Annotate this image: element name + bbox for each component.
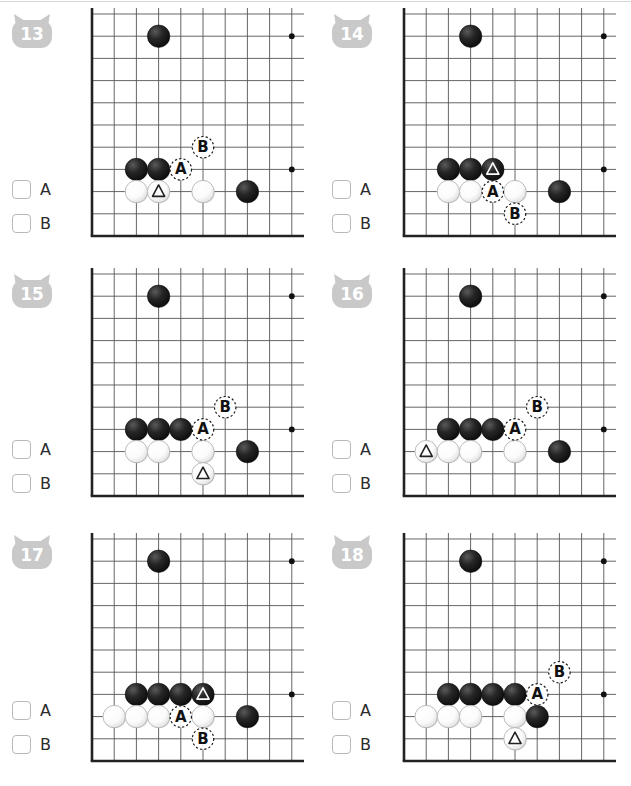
move-candidate-a[interactable]: A	[170, 706, 191, 727]
checkbox-a[interactable]	[12, 180, 31, 199]
checkbox-b[interactable]	[12, 735, 31, 754]
stone-black	[459, 550, 482, 573]
stone-black	[459, 418, 482, 441]
move-candidate-b[interactable]: B	[192, 136, 213, 157]
answer-label: B	[40, 474, 51, 493]
star-point	[289, 33, 295, 39]
checkbox-b[interactable]	[12, 474, 31, 493]
star-point	[601, 33, 607, 39]
stone-white	[103, 705, 126, 728]
checkbox-a[interactable]	[12, 440, 31, 459]
move-candidate-a[interactable]: A	[192, 419, 213, 440]
move-candidate-a[interactable]: A	[482, 181, 503, 202]
move-candidate-a[interactable]: A	[526, 684, 547, 705]
move-candidate-label: B	[554, 663, 565, 681]
go-board-grid	[403, 8, 616, 236]
stone-white	[192, 705, 215, 728]
move-candidate-a[interactable]: A	[504, 419, 525, 440]
checkbox-b[interactable]	[332, 474, 351, 493]
checkbox-a[interactable]	[332, 701, 351, 720]
stone-white-marked	[504, 728, 527, 751]
move-candidate-b[interactable]: B	[192, 728, 213, 749]
answer-option-b[interactable]: B	[332, 470, 371, 496]
answer-checkbox-group: AB	[332, 436, 371, 504]
stone-white	[147, 705, 170, 728]
stone-black	[459, 285, 482, 308]
answer-checkbox-group: AB	[12, 176, 51, 244]
star-point	[601, 558, 607, 564]
stone-white-marked	[415, 440, 438, 463]
move-candidate-label: B	[531, 398, 542, 416]
stone-black	[147, 683, 170, 706]
checkbox-a[interactable]	[12, 701, 31, 720]
answer-label: B	[360, 214, 371, 233]
problem-number: 16	[330, 272, 374, 310]
stone-white	[504, 705, 527, 728]
star-point	[601, 426, 607, 432]
star-point	[601, 166, 607, 172]
answer-label: A	[360, 701, 371, 720]
move-candidate-b[interactable]: B	[504, 203, 525, 224]
move-candidate-label: B	[197, 138, 208, 156]
answer-option-a[interactable]: A	[332, 176, 371, 202]
go-board[interactable]: AB	[398, 8, 631, 264]
answer-option-b[interactable]: B	[12, 731, 51, 757]
go-board[interactable]: AB	[86, 268, 320, 524]
stone-black	[147, 550, 170, 573]
stone-black	[548, 180, 571, 203]
star-point	[601, 293, 607, 299]
checkbox-a[interactable]	[332, 440, 351, 459]
stone-black	[147, 25, 170, 48]
stone-black	[236, 705, 259, 728]
checkbox-b[interactable]	[332, 214, 351, 233]
move-candidate-b[interactable]: B	[526, 396, 547, 417]
answer-option-a[interactable]: A	[332, 436, 371, 462]
stone-black	[548, 440, 571, 463]
go-problem-17: 17ABAB	[0, 521, 320, 781]
stone-black	[459, 25, 482, 48]
move-candidate-label: A	[175, 160, 187, 178]
answer-option-b[interactable]: B	[332, 210, 371, 236]
answer-label: A	[360, 180, 371, 199]
stone-white	[504, 440, 527, 463]
checkbox-b[interactable]	[332, 735, 351, 754]
go-board[interactable]: AB	[86, 533, 320, 786]
answer-option-a[interactable]: A	[12, 436, 51, 462]
problem-number: 18	[330, 533, 374, 571]
answer-option-a[interactable]: A	[12, 176, 51, 202]
stone-black	[504, 683, 527, 706]
problem-number-badge: 18	[330, 533, 374, 571]
answer-option-a[interactable]: A	[12, 697, 51, 723]
problem-number-badge: 15	[10, 272, 54, 310]
checkbox-a[interactable]	[332, 180, 351, 199]
answer-option-b[interactable]: B	[332, 731, 371, 757]
go-board[interactable]: AB	[398, 268, 631, 524]
go-board-grid	[91, 8, 304, 236]
stone-black	[147, 158, 170, 181]
answer-label: A	[360, 440, 371, 459]
move-candidate-b[interactable]: B	[214, 396, 235, 417]
stone-black	[125, 418, 148, 441]
stone-white	[125, 705, 148, 728]
stone-black	[482, 418, 505, 441]
stone-black	[482, 683, 505, 706]
answer-option-b[interactable]: B	[12, 210, 51, 236]
checkbox-b[interactable]	[12, 214, 31, 233]
problem-number-badge: 14	[330, 12, 374, 50]
go-board[interactable]: AB	[86, 8, 320, 264]
answer-option-a[interactable]: A	[332, 697, 371, 723]
stone-white	[504, 180, 527, 203]
problem-number-badge: 16	[330, 272, 374, 310]
go-board[interactable]: AB	[398, 533, 631, 786]
answer-label: A	[40, 180, 51, 199]
stone-black	[236, 180, 259, 203]
move-candidate-a[interactable]: A	[170, 159, 191, 180]
answer-label: B	[40, 735, 51, 754]
stone-white	[192, 180, 215, 203]
answer-option-b[interactable]: B	[12, 470, 51, 496]
move-candidate-b[interactable]: B	[549, 661, 570, 682]
stone-black	[125, 683, 148, 706]
problem-number: 13	[10, 12, 54, 50]
problem-number-badge: 13	[10, 12, 54, 50]
stone-black	[437, 683, 460, 706]
